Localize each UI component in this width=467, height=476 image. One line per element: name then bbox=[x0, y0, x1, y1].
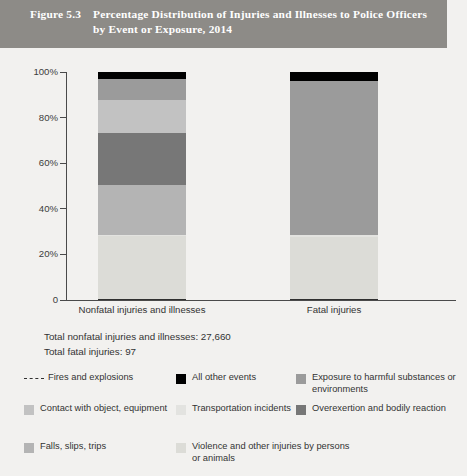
figure-title-band: Figure 5.3 Percentage Distribution of In… bbox=[0, 0, 447, 48]
y-axis-tick-label: 80% bbox=[2, 112, 58, 123]
legend-item-transportation-incidents: Transportation incidents bbox=[176, 403, 316, 415]
x-axis-label: Nonfatal injuries and illnesses bbox=[42, 304, 242, 315]
bar-segment bbox=[98, 185, 186, 234]
bar-segment bbox=[290, 81, 378, 235]
legend-item-exposure-harmful-substances: Exposure to harmful substances or enviro… bbox=[296, 372, 467, 395]
y-axis-tick bbox=[60, 254, 67, 255]
legend-label: Overexertion and bodily reaction bbox=[312, 403, 467, 415]
total-nonfatal-text: Total nonfatal injuries and illnesses: 2… bbox=[44, 330, 231, 345]
bar-segment bbox=[290, 72, 378, 81]
bar-segment bbox=[290, 235, 378, 237]
legend-label: Exposure to harmful substances or enviro… bbox=[312, 372, 467, 395]
y-axis-tick-label: 60% bbox=[2, 157, 58, 168]
bar-segment bbox=[98, 79, 186, 100]
legend-swatch-icon bbox=[176, 405, 186, 415]
stacked-bar bbox=[290, 72, 378, 300]
legend-swatch-icon bbox=[296, 405, 306, 415]
legend-swatch-dashed-icon bbox=[24, 378, 44, 379]
figure-page: Figure 5.3 Percentage Distribution of In… bbox=[0, 0, 467, 476]
totals-block: Total nonfatal injuries and illnesses: 2… bbox=[44, 330, 231, 359]
legend-item-overexertion: Overexertion and bodily reaction bbox=[296, 403, 467, 415]
legend-swatch-icon bbox=[24, 405, 34, 415]
bar-segment bbox=[98, 100, 186, 133]
bar-segment bbox=[98, 236, 186, 299]
legend-swatch-icon bbox=[176, 443, 186, 453]
chart-plot-area: 020%40%60%80%100% Nonfatal injuries and … bbox=[0, 52, 467, 310]
fires-and-explosions-dashed-marker bbox=[98, 299, 186, 300]
figure-number: Figure 5.3 bbox=[30, 7, 81, 22]
bar-segment bbox=[98, 72, 186, 79]
figure-title-block: Figure 5.3 Percentage Distribution of In… bbox=[30, 7, 433, 37]
legend-row: Falls, slips, trips Violence and other i… bbox=[24, 441, 467, 471]
figure-title: Percentage Distribution of Injuries and … bbox=[93, 7, 433, 37]
y-axis-tick bbox=[60, 208, 67, 209]
stacked-bar bbox=[98, 72, 186, 300]
bar-segment bbox=[290, 237, 378, 299]
legend-label: Falls, slips, trips bbox=[40, 441, 174, 453]
y-axis-tick bbox=[60, 117, 67, 118]
legend-item-fires-and-explosions: Fires and explosions bbox=[24, 372, 174, 384]
legend-label: Violence and other injuries by persons o… bbox=[192, 441, 351, 464]
legend-item-all-other-events: All other events bbox=[176, 372, 316, 384]
total-fatal-text: Total fatal injuries: 97 bbox=[44, 345, 231, 360]
legend-label: Fires and explosions bbox=[48, 372, 174, 384]
legend-label: Contact with object, equipment bbox=[40, 403, 174, 415]
y-axis-tick-label: 40% bbox=[2, 203, 58, 214]
legend-row: Contact with object, equipment Transport… bbox=[24, 403, 467, 433]
fires-and-explosions-dashed-marker bbox=[290, 299, 378, 300]
legend-item-violence-other-injuries: Violence and other injuries by persons o… bbox=[176, 441, 351, 464]
bar-segment bbox=[98, 133, 186, 185]
y-axis-tick bbox=[60, 163, 67, 164]
legend-row: Fires and explosions All other events Ex… bbox=[24, 372, 467, 393]
x-axis-label: Fatal injuries bbox=[234, 304, 434, 315]
legend-item-contact-with-object: Contact with object, equipment bbox=[24, 403, 174, 415]
bar-segment bbox=[98, 235, 186, 237]
legend-swatch-icon bbox=[296, 374, 306, 384]
chart-legend: Fires and explosions All other events Ex… bbox=[24, 372, 467, 471]
y-axis-tick-label: 100% bbox=[2, 66, 58, 77]
x-axis-line bbox=[66, 300, 456, 301]
legend-swatch-icon bbox=[176, 374, 186, 384]
y-axis-tick bbox=[60, 300, 67, 301]
y-axis-tick bbox=[60, 72, 67, 73]
y-axis-tick-label: 20% bbox=[2, 248, 58, 259]
y-axis-line bbox=[66, 72, 67, 301]
legend-swatch-icon bbox=[24, 443, 34, 453]
legend-item-falls-slips-trips: Falls, slips, trips bbox=[24, 441, 174, 453]
